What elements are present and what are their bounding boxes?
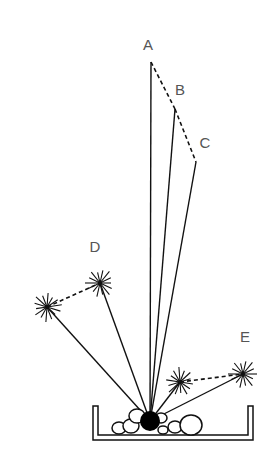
point-labels: A B C D E [90, 36, 250, 345]
starburst-icon [35, 293, 62, 322]
diagram-canvas: A B C D E [0, 0, 275, 457]
pebble [158, 426, 168, 434]
label-d: D [90, 238, 101, 255]
label-c: C [200, 134, 211, 151]
diagram-svg: A B C D E [0, 0, 275, 457]
dashed-link [175, 109, 196, 162]
pebble [180, 415, 202, 435]
label-e: E [240, 328, 250, 345]
trajectory-rays [47, 62, 243, 421]
origin-ball-circle [140, 411, 160, 431]
starburst-icon [228, 361, 257, 387]
starburst-icon [85, 270, 112, 296]
dashed-links [47, 62, 243, 382]
ray-d-burst [100, 283, 150, 421]
burst-icons [35, 270, 257, 394]
ray-d-left-burst [47, 307, 150, 421]
label-a: A [143, 36, 153, 53]
ray-c [150, 162, 196, 421]
origin-ball [140, 411, 160, 431]
ray-a [150, 62, 151, 421]
dashed-link [151, 62, 175, 109]
label-b: B [175, 81, 185, 98]
ray-b [150, 109, 175, 421]
